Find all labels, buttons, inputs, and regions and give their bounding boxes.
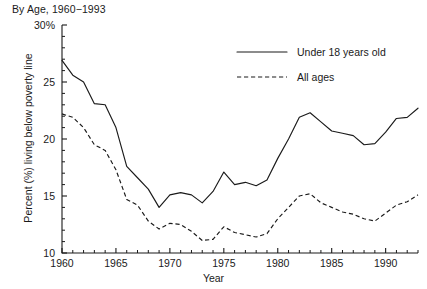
x-tick-label: 1985	[320, 257, 344, 269]
y-tick-label: 20	[43, 133, 55, 145]
x-tick-label: 1965	[104, 257, 128, 269]
legend-label: Under 18 years old	[297, 46, 386, 58]
series-layer	[62, 60, 418, 240]
x-tick-label: 1980	[266, 257, 290, 269]
legend-label: All ages	[297, 71, 334, 83]
series-line-solid	[62, 60, 418, 207]
x-tick-label: 1960	[50, 257, 74, 269]
y-tick-label: 15	[43, 190, 55, 202]
x-tick-label: 1970	[158, 257, 182, 269]
plot-area: 1015202530% 1960196519701975198019851990…	[0, 0, 427, 289]
series-line-dashed	[62, 114, 418, 241]
y-axis-tick-labels: 1015202530%	[34, 19, 55, 259]
chart-legend: Under 18 years oldAll ages	[237, 46, 386, 83]
y-tick-label: 25	[43, 76, 55, 88]
x-tick-label: 1990	[374, 257, 398, 269]
x-tick-label: 1975	[212, 257, 236, 269]
poverty-chart-figure: By Age, 1960−1993 Percent (%) living bel…	[0, 0, 427, 289]
x-axis-tick-labels: 1960196519701975198019851990	[50, 257, 397, 269]
y-tick-label: 30%	[34, 19, 55, 31]
x-axis-major-ticks	[62, 248, 386, 253]
